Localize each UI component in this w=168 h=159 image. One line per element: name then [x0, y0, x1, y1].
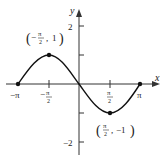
svg-text:2: 2 — [47, 98, 50, 104]
svg-text:−: − — [40, 89, 45, 99]
y-axis-arrow-icon — [76, 9, 82, 17]
tick-label-neg-pi: −π — [10, 90, 20, 100]
point-neg-pi — [16, 82, 20, 86]
y-axis-label: y — [69, 5, 75, 16]
tick-label-neg-half-pi: − π 2 — [40, 89, 52, 104]
tick-label-y2: 2 — [68, 22, 73, 32]
svg-text:,: , — [46, 33, 48, 43]
svg-text:): ) — [59, 31, 64, 47]
point-max — [47, 53, 51, 57]
svg-text:): ) — [130, 123, 135, 139]
point-min — [108, 111, 112, 115]
svg-text:π: π — [46, 89, 50, 97]
svg-text:(: ( — [96, 123, 101, 139]
svg-text:2: 2 — [108, 98, 111, 104]
svg-text:π: π — [103, 122, 107, 130]
annotation-min: ( π 2 , −1 ) — [96, 122, 135, 139]
svg-text:2: 2 — [39, 39, 42, 45]
svg-text:−1: −1 — [116, 125, 126, 135]
tick-label-pi: π — [137, 90, 142, 100]
tick-label-yneg2: −2 — [63, 138, 73, 148]
point-pi — [138, 82, 142, 86]
svg-text:1: 1 — [52, 33, 57, 43]
sine-graph: x y −π π − π 2 π 2 2 −2 ( − π 2 , 1 ) ( — [0, 0, 168, 159]
annotation-max: ( − π 2 , 1 ) — [26, 30, 64, 47]
svg-text:π: π — [38, 30, 42, 38]
svg-text:2: 2 — [104, 131, 107, 137]
tick-label-half-pi: π 2 — [107, 89, 113, 104]
svg-text:π: π — [107, 89, 111, 97]
svg-text:−: − — [31, 32, 36, 42]
svg-text:,: , — [111, 125, 113, 135]
x-axis-label: x — [154, 72, 160, 83]
